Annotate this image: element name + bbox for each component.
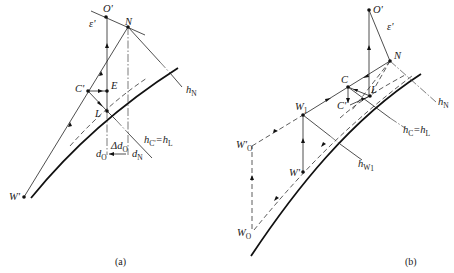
label-hc-hl-a: hC'=hL xyxy=(144,134,173,148)
saturation-curve-a xyxy=(31,68,178,198)
label-l-b: L xyxy=(370,84,377,95)
saturation-curve-b xyxy=(251,74,421,256)
figure-canvas: O' ε' N C' E L W' hN hC'=hL dO ΔdO dN (a… xyxy=(0,0,454,273)
label-w1-b: W1 xyxy=(295,101,308,115)
point-o-prime-a xyxy=(104,15,108,19)
caption-b: (b) xyxy=(405,256,417,268)
label-h-n-b: hN xyxy=(438,96,449,110)
label-c-prime-b: C' xyxy=(337,100,347,111)
label-l-a: L xyxy=(94,108,101,119)
label-e-a: E xyxy=(110,80,118,91)
label-w0-b: WO xyxy=(237,227,252,241)
point-c-prime-a xyxy=(86,89,90,93)
label-hc-hl-b: hC=hL xyxy=(403,124,431,138)
point-e-a xyxy=(105,89,109,93)
label-h-w1-b: hW1 xyxy=(358,158,374,173)
h-n-line-a xyxy=(128,27,160,62)
label-w-prime-b: W' xyxy=(289,167,301,178)
label-w-prime-a: W' xyxy=(9,191,21,202)
w-to-n-line-a xyxy=(24,27,128,197)
label-c-b: C xyxy=(341,74,349,85)
epsilon-line-b xyxy=(369,10,390,61)
psychrometric-construction-figure: O' ε' N C' E L W' hN hC'=hL dO ΔdO dN (a… xyxy=(0,0,454,273)
panel-b: O' ε' N C C' L W1 W' W'O WO hN hC=hL hW1… xyxy=(236,4,449,268)
panel-a: O' ε' N C' E L W' hN hC'=hL dO ΔdO dN (a… xyxy=(9,3,197,268)
point-n-b xyxy=(388,59,392,63)
point-o-prime-b xyxy=(367,8,371,12)
h-n-line-b xyxy=(390,61,436,102)
label-d-n: dN xyxy=(132,148,143,162)
label-d-o: dO xyxy=(96,148,107,162)
caption-a: (a) xyxy=(115,256,126,268)
label-w0-prime-b: W'O xyxy=(236,139,253,153)
label-n-a: N xyxy=(124,16,133,27)
label-epsilon-a: ε' xyxy=(89,18,96,29)
point-l-a xyxy=(105,109,109,113)
label-c-prime-a: C' xyxy=(75,83,85,94)
label-delta-d-o: ΔdO xyxy=(110,140,128,154)
w0-prime-to-w1-line xyxy=(252,115,303,146)
label-o-prime-b: O' xyxy=(373,4,384,15)
label-n-b: N xyxy=(393,50,402,61)
point-w-prime-b xyxy=(301,170,305,174)
label-epsilon-b: ε' xyxy=(387,21,394,32)
label-o-prime-a: O' xyxy=(103,3,114,14)
label-h-n-a: hN xyxy=(186,84,197,98)
point-w-prime-a xyxy=(22,195,26,199)
epsilon-line-a xyxy=(91,11,145,35)
dashed-curve-b1 xyxy=(254,76,412,230)
point-c-b xyxy=(346,85,350,89)
